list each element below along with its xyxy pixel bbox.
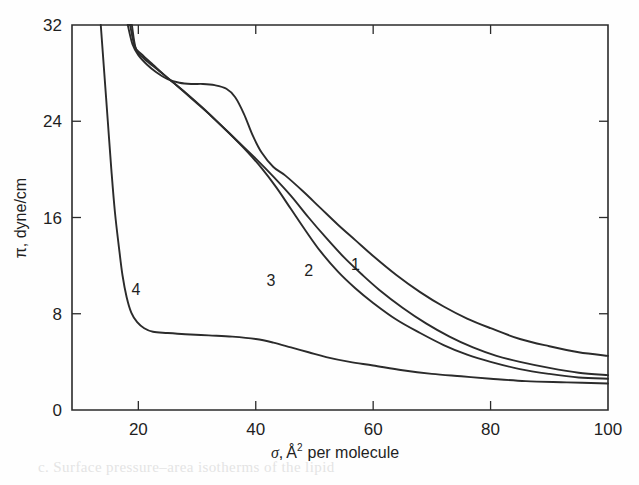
chart-svg: 20406080100 08162432 1234 σ,Å2per molecu… [0,0,639,485]
curve-label-2: 2 [304,262,313,279]
isotherm-curve-1 [128,25,608,356]
isotherm-curve-4 [101,25,608,384]
curve-group [101,25,608,384]
y-tick-label: 24 [43,112,62,131]
y-tick-label: 0 [53,401,62,420]
y-axis-title-text: π, dyne/cm [12,178,29,258]
curve-label-3: 3 [267,272,276,289]
x-tick-label: 100 [594,420,622,439]
x-tick-label: 40 [246,420,265,439]
y-tick-label: 32 [43,16,62,35]
y-axis-tick-labels: 08162432 [43,16,62,420]
x-tick-label: 80 [481,420,500,439]
curve-label-4: 4 [132,281,141,298]
curve-number-labels: 1234 [132,256,361,297]
x-tick-label: 20 [129,420,148,439]
figure-container: 20406080100 08162432 1234 σ,Å2per molecu… [0,0,639,485]
x-axis-ticks [138,25,490,410]
x-axis-exponent: 2 [297,442,303,453]
y-tick-label: 16 [43,209,62,228]
y-axis-ticks [72,121,608,314]
isotherm-curve-3 [132,25,608,379]
x-tick-label: 60 [364,420,383,439]
y-tick-label: 8 [53,305,62,324]
plot-frame [72,25,608,410]
page-bleed-caption: c. Surface pressure–area isotherms of th… [0,459,639,485]
x-axis-tick-labels: 20406080100 [129,420,622,439]
curve-label-1: 1 [351,256,360,273]
y-axis-title: π, dyne/cm [12,178,29,258]
isotherm-curve-2 [130,25,608,375]
